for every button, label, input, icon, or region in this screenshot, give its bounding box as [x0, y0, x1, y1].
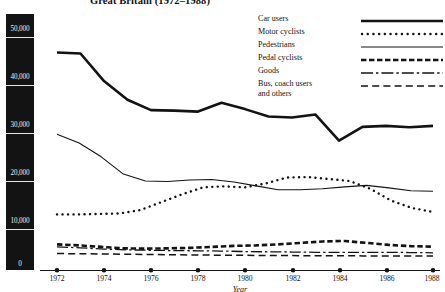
legend-label-line2: and others — [258, 89, 312, 99]
x-axis-tick-1986: 1986 — [367, 274, 407, 283]
legend-swatch-bold-dashed — [361, 57, 443, 63]
series-line — [57, 241, 433, 249]
y-axis-separator — [6, 229, 34, 230]
figure-root: Great Britain (1972–1988) 50,000 40,000 … — [0, 0, 445, 292]
x-axis-tick-1972: 1972 — [37, 274, 77, 283]
x-axis-tick-dot — [385, 268, 390, 273]
x-axis-tick-dot — [431, 268, 436, 273]
x-axis-tick-1976: 1976 — [131, 274, 171, 283]
series-line — [57, 254, 433, 257]
legend-swatch-dotted — [361, 31, 443, 37]
legend-label: Pedal cyclists — [258, 53, 302, 63]
legend-label: Motor cyclists — [258, 27, 305, 37]
y-axis-tick-20000: 20,000 — [6, 168, 34, 179]
legend-item-goods: Goods — [258, 66, 443, 79]
legend-label-line1: Bus, coach users — [258, 79, 312, 88]
legend-label: Car users — [258, 14, 288, 24]
x-axis-tick-1974: 1974 — [84, 274, 124, 283]
y-axis-separator — [6, 37, 34, 38]
y-axis-column — [6, 14, 34, 270]
legend-label: Bus, coach users and others — [258, 79, 312, 99]
legend-swatch-long-dash — [361, 83, 443, 89]
y-axis-tick-40000: 40,000 — [6, 72, 34, 83]
legend-swatch-thin-solid — [361, 44, 443, 50]
chart-title: Great Britain (1972–1988) — [0, 0, 300, 6]
y-axis-tick-30000: 30,000 — [6, 120, 34, 131]
y-axis-tick-50000: 50,000 — [6, 24, 34, 35]
x-axis-tick-dot — [55, 268, 60, 273]
y-axis-separator — [6, 85, 34, 86]
legend-item-motor-cyclists: Motor cyclists — [258, 27, 443, 40]
x-axis-tick-dot — [243, 268, 248, 273]
legend-item-pedal-cyclists: Pedal cyclists — [258, 53, 443, 66]
y-axis-separator — [6, 181, 34, 182]
x-axis-tick-dot — [102, 268, 107, 273]
x-axis-tick-dot — [196, 268, 201, 273]
series-line — [57, 134, 433, 191]
series-line — [57, 247, 433, 253]
y-axis-tick-10000: 10,000 — [6, 216, 34, 227]
x-axis-tick-1978: 1978 — [178, 274, 218, 283]
y-axis-separator — [6, 133, 34, 134]
x-axis-tick-1982: 1982 — [273, 274, 313, 283]
legend: Car users Motor cyclists Pedestrians Ped… — [258, 14, 443, 100]
legend-label: Goods — [258, 66, 279, 76]
x-axis-tick-dot — [291, 268, 296, 273]
legend-swatch-dash-dot — [361, 70, 443, 76]
x-axis-tick-dot — [338, 268, 343, 273]
legend-item-car-users: Car users — [258, 14, 443, 27]
x-axis-tick-dot — [149, 268, 154, 273]
x-axis-tick-1984: 1984 — [320, 274, 360, 283]
legend-swatch-thick-solid — [361, 18, 443, 24]
legend-item-bus-coach-users: Bus, coach users and others — [258, 79, 443, 100]
legend-label: Pedestrians — [258, 40, 295, 50]
x-axis-tick-1980: 1980 — [225, 274, 265, 283]
legend-item-pedestrians: Pedestrians — [258, 40, 443, 53]
y-axis-tick-0: 0 — [6, 259, 34, 270]
x-axis-tick-1988: 1988 — [412, 274, 445, 283]
x-axis-title: Year — [40, 285, 440, 292]
series-line — [57, 177, 433, 214]
